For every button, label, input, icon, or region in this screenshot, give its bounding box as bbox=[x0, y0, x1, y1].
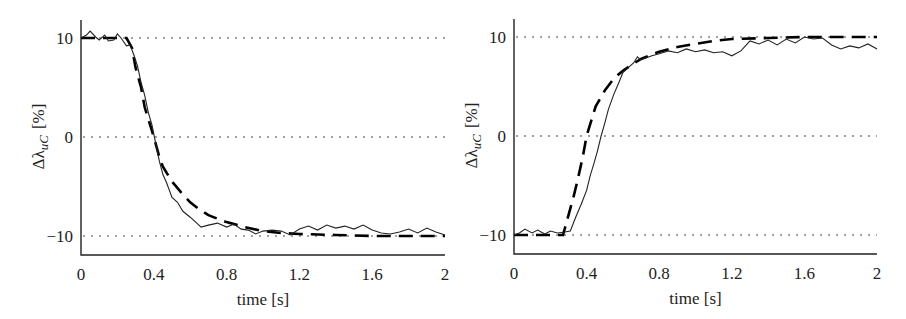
x-tick-label: 2 bbox=[873, 264, 882, 283]
x-tick-label: 0 bbox=[510, 264, 519, 283]
left-plot: 100−1000.40.81.21.62time [s]ΔλuC[%] bbox=[29, 20, 449, 309]
y-tick-label: −10 bbox=[479, 226, 506, 245]
y-tick-label: 0 bbox=[65, 128, 74, 147]
y-tick-label: −10 bbox=[46, 227, 73, 246]
measured-curve bbox=[81, 31, 445, 235]
x-tick-label: 0.8 bbox=[649, 264, 670, 283]
x-tick-label: 1.6 bbox=[362, 265, 383, 284]
x-tick-label: 0.8 bbox=[216, 265, 237, 284]
x-tick-label: 1.6 bbox=[794, 264, 815, 283]
x-tick-label: 1.2 bbox=[289, 265, 310, 284]
y-axis-label: ΔλuC[%] bbox=[29, 104, 51, 170]
model-curve bbox=[81, 38, 445, 236]
figure: 100−1000.40.81.21.62time [s]ΔλuC[%] 100−… bbox=[0, 0, 906, 319]
y-tick-label: 0 bbox=[498, 127, 507, 146]
axes bbox=[81, 20, 445, 255]
x-tick-label: 0.4 bbox=[576, 264, 598, 283]
measured-curve bbox=[514, 37, 877, 235]
y-tick-label: 10 bbox=[56, 29, 73, 48]
y-tick-label: 10 bbox=[489, 28, 506, 47]
x-axis-label: time [s] bbox=[669, 289, 721, 308]
x-axis-label: time [s] bbox=[237, 290, 289, 309]
x-tick-label: 0 bbox=[77, 265, 86, 284]
y-axis-label: ΔλuC[%] bbox=[462, 103, 484, 169]
model-curve bbox=[514, 37, 877, 235]
x-tick-label: 2 bbox=[441, 265, 450, 284]
right-plot: 100−1000.40.81.21.62time [s]ΔλuC[%] bbox=[462, 19, 881, 308]
x-tick-label: 1.2 bbox=[721, 264, 742, 283]
x-tick-label: 0.4 bbox=[143, 265, 165, 284]
